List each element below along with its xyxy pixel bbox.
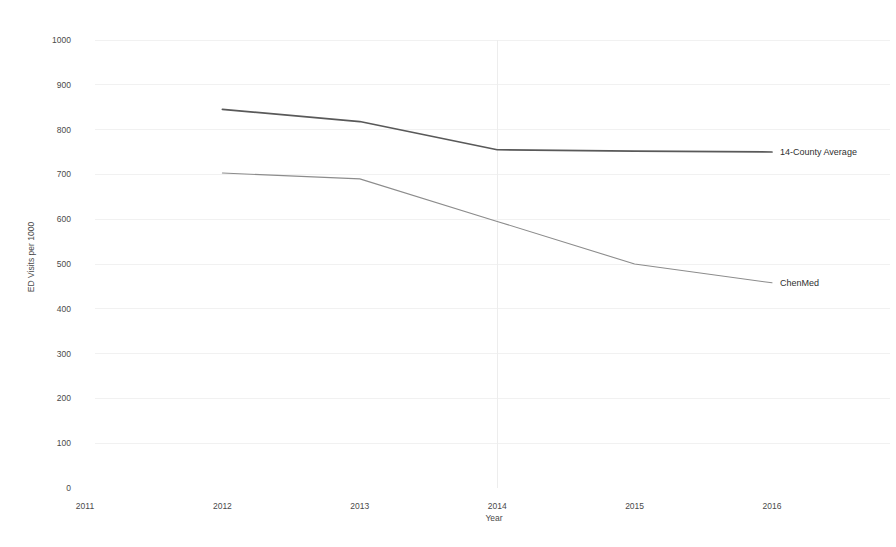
y-axis-tick-labels: 01002003004005006007008009001000 bbox=[52, 35, 71, 493]
series-label-bottom: ChenMed bbox=[780, 278, 819, 288]
x-tick-label: 2012 bbox=[213, 501, 232, 511]
y-tick-label: 300 bbox=[57, 349, 71, 359]
chart-container: 01002003004005006007008009001000 2011201… bbox=[0, 0, 896, 547]
series-inline-labels-group: 14-County AverageChenMed bbox=[780, 147, 857, 288]
line-chart: 01002003004005006007008009001000 2011201… bbox=[0, 0, 896, 547]
y-tick-label: 400 bbox=[57, 304, 71, 314]
y-tick-label: 500 bbox=[57, 259, 71, 269]
y-tick-label: 800 bbox=[57, 125, 71, 135]
y-tick-label: 200 bbox=[57, 393, 71, 403]
gridlines-group bbox=[95, 40, 890, 443]
y-tick-label: 100 bbox=[57, 438, 71, 448]
y-tick-label: 900 bbox=[57, 80, 71, 90]
x-tick-label: 2011 bbox=[76, 501, 95, 511]
x-tick-label: 2015 bbox=[625, 501, 644, 511]
x-axis-title: Year bbox=[485, 513, 502, 523]
x-tick-label: 2016 bbox=[763, 501, 782, 511]
y-tick-label: 700 bbox=[57, 169, 71, 179]
y-axis-title: ED Visits per 1000 bbox=[26, 222, 36, 293]
x-axis-tick-labels: 201120122013201420152016 bbox=[76, 501, 782, 511]
x-tick-label: 2014 bbox=[488, 501, 507, 511]
series-label-top: 14-County Average bbox=[780, 147, 857, 157]
y-tick-label: 600 bbox=[57, 214, 71, 224]
y-tick-label: 1000 bbox=[52, 35, 71, 45]
x-tick-label: 2013 bbox=[350, 501, 369, 511]
y-tick-label: 0 bbox=[66, 483, 71, 493]
